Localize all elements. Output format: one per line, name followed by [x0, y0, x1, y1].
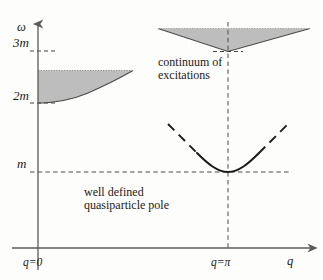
- x-tick-label-q-pi: q=π: [211, 256, 230, 269]
- y-tick-label-2m: 2m: [13, 89, 29, 104]
- continuum-low-q-fill: [38, 71, 133, 104]
- y-tick-label-m: m: [17, 157, 26, 172]
- continuum-region-pi: [158, 29, 310, 52]
- x-axis-label: q: [287, 254, 293, 268]
- y-tick-label-3m: 3m: [13, 36, 29, 51]
- x-tick-label-q0: q=0: [23, 256, 42, 269]
- annotation-quasiparticle: well defined quasiparticle pole: [84, 186, 169, 213]
- annotation-continuum-line1: continuum of: [158, 56, 222, 69]
- annotation-quasiparticle-line1: well defined: [84, 186, 169, 199]
- dispersion-diagram: ω q 3m 2m m q=0 q=π continuum of excitat…: [0, 0, 323, 280]
- diagram-canvas: [0, 0, 323, 280]
- continuum-pi-fill: [158, 29, 310, 52]
- continuum-region-low-q: [38, 71, 133, 104]
- annotation-continuum: continuum of excitations: [158, 56, 222, 83]
- y-axis-label: ω: [17, 20, 26, 34]
- annotation-quasiparticle-line2: quasiparticle pole: [84, 199, 169, 212]
- dispersion-solid: [197, 153, 259, 172]
- dispersion-left-dashed: [168, 124, 197, 153]
- annotation-continuum-line2: excitations: [158, 69, 222, 82]
- dispersion-right-dashed: [259, 124, 288, 153]
